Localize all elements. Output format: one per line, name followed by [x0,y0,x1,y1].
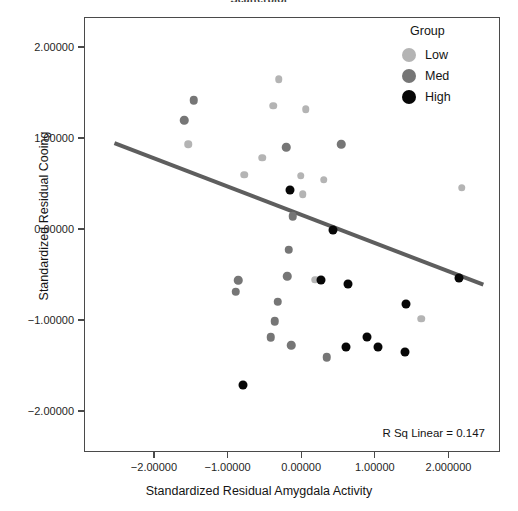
data-point-high [374,343,383,352]
x-tick-mark [374,452,375,458]
data-point-high [329,225,338,234]
data-point-low [259,154,267,162]
x-tick-mark [448,452,449,458]
data-point-low [275,76,283,84]
legend-swatch-low-icon [402,48,416,62]
data-point-high [285,185,294,194]
data-point-high [238,381,247,390]
data-point-med [234,276,243,285]
x-tick-label: 1.00000 [355,461,395,473]
data-point-low [270,102,278,110]
data-point-high [343,279,352,288]
y-tick-label: 2.00000 [0,41,74,53]
legend-label-med: Med [425,69,449,83]
data-point-med [271,317,280,326]
data-point-low [320,176,328,184]
data-point-high [342,343,351,352]
legend-label-high: High [425,90,451,104]
x-tick-label: 0.00000 [281,461,321,473]
data-point-med [282,143,291,152]
legend-item-low[interactable]: Low [402,44,502,65]
legend-title: Group [410,24,502,38]
x-axis-title: Standardized Residual Amygdala Activity [0,484,518,498]
x-tick-mark [153,452,154,458]
x-tick-label: −2.00000 [131,461,177,473]
data-point-low [184,140,192,148]
x-tick-label: 2.000000 [426,461,472,473]
scatterplot-figure: Scatterplot Standardized Residual Cooing… [0,0,518,511]
data-point-med [283,272,292,281]
legend-item-high[interactable]: High [402,86,502,107]
y-tick-label: 0.00000 [0,223,74,235]
legend-label-low: Low [425,48,448,62]
data-point-high [362,332,371,341]
data-point-low [299,190,307,198]
data-point-low [418,315,426,323]
data-point-med [232,288,241,297]
legend-item-med[interactable]: Med [402,65,502,86]
data-point-med [180,116,189,125]
data-point-low [240,171,248,179]
legend-swatch-high-icon [402,90,416,104]
data-point-med [285,245,294,254]
data-point-high [455,273,464,282]
data-point-low [458,184,466,192]
y-tick-label: 1.00000 [0,132,74,144]
data-point-med [274,298,283,307]
data-point-low [297,172,305,180]
data-point-med [287,341,296,350]
legend-swatch-med-icon [402,69,416,83]
data-point-high [317,275,326,284]
y-tick-label: −1.00000 [0,314,74,326]
chart-title: Scatterplot [0,0,518,2]
r-squared-annotation: R Sq Linear = 0.147 [382,427,485,439]
x-tick-label: −1.00000 [204,461,250,473]
x-tick-mark [227,452,228,458]
y-tick-label: −2.00000 [0,405,74,417]
data-point-low [302,106,310,114]
x-tick-mark [301,452,302,458]
legend: Group Low Med High [398,24,502,107]
data-point-med [266,333,275,342]
data-point-high [401,347,410,356]
data-point-med [190,96,199,105]
data-point-high [402,299,411,308]
data-point-med [322,353,331,362]
data-point-med [288,212,297,221]
data-point-med [337,140,346,149]
